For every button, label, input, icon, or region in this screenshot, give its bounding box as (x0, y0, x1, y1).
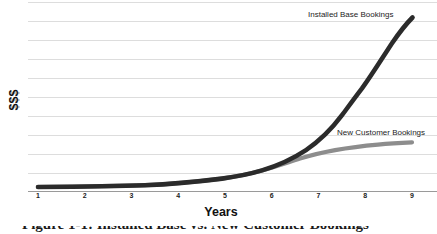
y-axis-title: $$$ (7, 90, 21, 111)
x-tick-3: 3 (130, 192, 134, 199)
line-chart: 1 2 3 4 5 6 7 8 9 Years $$$ Installed Ba… (0, 0, 437, 234)
figure-caption-clipped: Figure 1-1: Installed Base vs. New Custo… (0, 226, 437, 234)
x-tick-5: 5 (223, 192, 227, 199)
x-tick-8: 8 (363, 192, 367, 199)
chart-background (0, 0, 437, 234)
x-tick-6: 6 (270, 192, 274, 199)
figure-container: 1 2 3 4 5 6 7 8 9 Years $$$ Installed Ba… (0, 0, 437, 234)
figure-caption-text: Figure 1-1: Installed Base vs. New Custo… (22, 226, 422, 233)
x-tick-1: 1 (36, 192, 40, 199)
x-tick-4: 4 (176, 192, 180, 199)
x-axis-title: Years (204, 205, 237, 219)
x-tick-9: 9 (410, 192, 414, 199)
series-label-installed-base-bookings: Installed Base Bookings (308, 10, 393, 19)
x-tick-7: 7 (317, 192, 321, 199)
series-label-new-customer-bookings: New Customer Bookings (337, 128, 425, 137)
x-tick-2: 2 (83, 192, 87, 199)
